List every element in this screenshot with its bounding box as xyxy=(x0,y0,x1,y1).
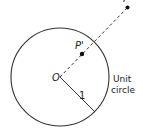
unit-circle-caption-line1: Unit xyxy=(113,74,132,84)
point-p xyxy=(126,6,130,10)
point-p-prime xyxy=(80,52,84,56)
unit-circle-diagram: O P' P 1 Unit circle xyxy=(0,0,143,137)
p-prime-label: P' xyxy=(75,40,84,51)
radius-segment xyxy=(60,77,95,112)
unit-circle-caption-line2: circle xyxy=(111,85,135,95)
radius-label: 1 xyxy=(79,90,85,101)
p-label: P xyxy=(123,0,130,4)
origin-label: O xyxy=(52,72,60,83)
